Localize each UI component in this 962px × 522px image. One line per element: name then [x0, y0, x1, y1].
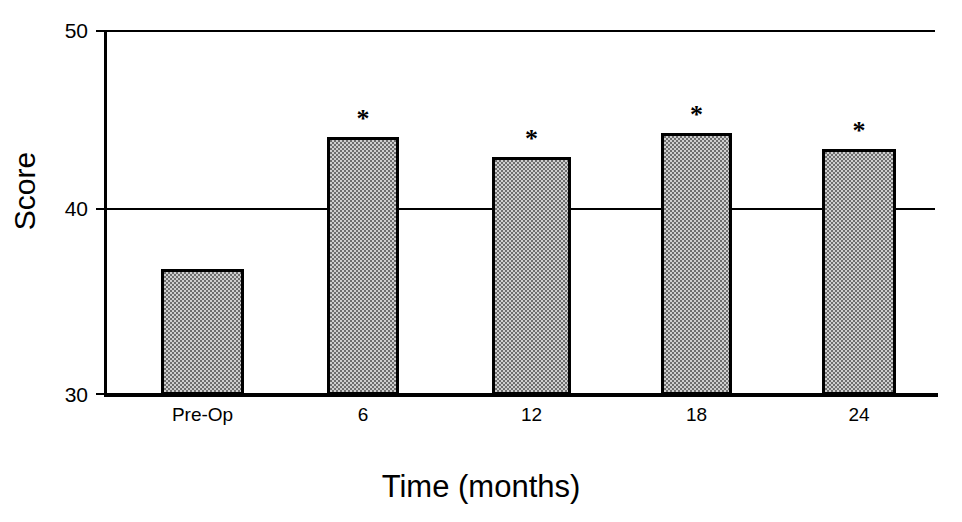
bar-24 [822, 149, 896, 395]
significance-asterisk-24: * [844, 118, 874, 144]
x-tick-label-6: 6 [303, 404, 423, 426]
y-tick-label-50: 50 [28, 20, 88, 41]
x-tick-label-12: 12 [472, 404, 592, 426]
y-axis-title: Score [9, 111, 41, 271]
y-tick-mark-40 [96, 208, 105, 210]
x-tick-label-18: 18 [637, 404, 757, 426]
bar-18 [661, 133, 732, 395]
x-axis-title: Time (months) [0, 470, 962, 504]
significance-asterisk-18: * [682, 102, 712, 128]
bar-12 [492, 157, 571, 395]
x-tick-label-24: 24 [799, 404, 919, 426]
y-tick-mark-30 [96, 393, 105, 395]
y-axis-line [104, 31, 107, 397]
gridline-50 [104, 30, 935, 32]
significance-asterisk-12: * [517, 126, 547, 152]
y-tick-mark-50 [96, 30, 105, 32]
significance-asterisk-6: * [348, 106, 378, 132]
bar-6 [327, 137, 399, 395]
x-tick-label-pre-op: Pre-Op [143, 404, 263, 426]
y-tick-label-30: 30 [28, 384, 88, 405]
bar-pre-op [161, 269, 244, 395]
bar-chart: 50 40 30 Score * * * * Pre-Op 6 12 18 24… [0, 0, 962, 522]
chart-title [0, 0, 962, 8]
